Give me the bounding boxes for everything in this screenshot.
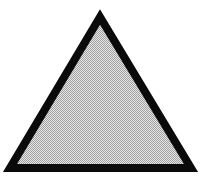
triangle-shape <box>10 17 191 168</box>
triangle-figure <box>0 0 205 180</box>
